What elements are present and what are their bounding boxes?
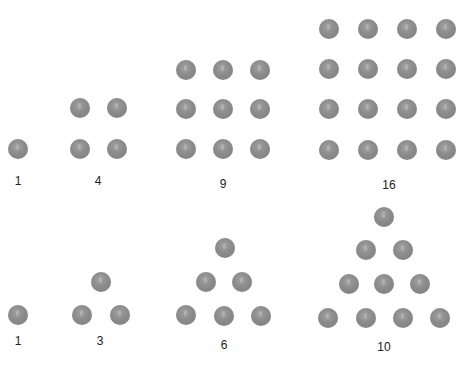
dot-icon bbox=[358, 19, 378, 39]
dot-pattern-diagram: 1491613610 bbox=[0, 0, 465, 365]
dot-icon bbox=[319, 140, 339, 160]
dot-icon bbox=[319, 99, 339, 119]
dot-icon bbox=[397, 19, 417, 39]
figure-label: 16 bbox=[374, 178, 404, 192]
dot-icon bbox=[110, 305, 130, 325]
figure-label: 10 bbox=[369, 340, 399, 354]
dot-icon bbox=[215, 238, 235, 258]
dot-icon bbox=[213, 99, 233, 119]
dot-icon bbox=[70, 98, 90, 118]
dot-icon bbox=[397, 99, 417, 119]
dot-icon bbox=[251, 306, 271, 326]
dot-icon bbox=[358, 140, 378, 160]
dot-icon bbox=[374, 207, 394, 227]
figure-label: 9 bbox=[208, 177, 238, 191]
dot-icon bbox=[213, 139, 233, 159]
dot-icon bbox=[196, 272, 216, 292]
figure-label: 1 bbox=[3, 174, 33, 188]
dot-icon bbox=[107, 139, 127, 159]
dot-icon bbox=[213, 60, 233, 80]
dot-icon bbox=[318, 308, 338, 328]
dot-icon bbox=[393, 308, 413, 328]
dot-icon bbox=[436, 19, 456, 39]
dot-icon bbox=[8, 305, 28, 325]
dot-icon bbox=[72, 305, 92, 325]
dot-icon bbox=[176, 99, 196, 119]
dot-icon bbox=[176, 305, 196, 325]
dot-icon bbox=[410, 274, 430, 294]
figure-label: 1 bbox=[3, 334, 33, 348]
dot-icon bbox=[250, 99, 270, 119]
figure-label: 6 bbox=[209, 338, 239, 352]
dot-icon bbox=[70, 139, 90, 159]
dot-icon bbox=[319, 59, 339, 79]
dot-icon bbox=[358, 99, 378, 119]
dot-icon bbox=[436, 99, 456, 119]
dot-icon bbox=[176, 60, 196, 80]
dot-icon bbox=[250, 139, 270, 159]
dot-icon bbox=[8, 139, 28, 159]
dot-icon bbox=[436, 59, 456, 79]
dot-icon bbox=[430, 308, 450, 328]
dot-icon bbox=[250, 60, 270, 80]
dot-icon bbox=[356, 240, 376, 260]
dot-icon bbox=[339, 274, 359, 294]
dot-icon bbox=[319, 19, 339, 39]
dot-icon bbox=[374, 274, 394, 294]
figure-label: 3 bbox=[85, 334, 115, 348]
dot-icon bbox=[436, 140, 456, 160]
dot-icon bbox=[176, 139, 196, 159]
dot-icon bbox=[358, 59, 378, 79]
dot-icon bbox=[232, 272, 252, 292]
dot-icon bbox=[107, 98, 127, 118]
dot-icon bbox=[397, 59, 417, 79]
dot-icon bbox=[393, 240, 413, 260]
dot-icon bbox=[91, 272, 111, 292]
dot-icon bbox=[214, 306, 234, 326]
dot-icon bbox=[356, 308, 376, 328]
figure-label: 4 bbox=[83, 174, 113, 188]
dot-icon bbox=[397, 140, 417, 160]
